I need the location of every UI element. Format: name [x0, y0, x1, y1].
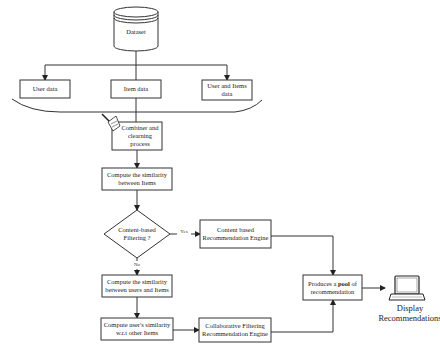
decision-label: Content-based Filtering ? — [114, 222, 160, 246]
content-engine-label: Content based Recommendation Engine — [202, 220, 269, 248]
dataset-label: Dataset — [114, 20, 158, 44]
laptop-icon — [389, 276, 425, 300]
yes-label: Yes — [177, 228, 191, 236]
pool-label-pre: Produces a — [308, 280, 338, 287]
collab-engine-label: Collaborative Filtering Recommendation E… — [201, 318, 269, 342]
user-similarity-label: Compute user's similarity w.r.t other It… — [103, 318, 171, 340]
user-data-label: User data — [20, 80, 70, 98]
item-similarity-label: Compute the similarity between Items — [104, 168, 170, 190]
pool-label: Produces a pool of recommendation — [305, 275, 360, 300]
combiner-label: Combiner and clearning process — [118, 122, 162, 150]
display-label: Display Recommendations — [380, 302, 440, 324]
no-label: No — [131, 261, 143, 269]
pool-label-bold: pool — [338, 280, 350, 287]
user-items-data-label: User and Items data — [204, 80, 250, 100]
user-item-similarity-label: Compute the similarity between users and… — [104, 275, 170, 297]
bracket-curve — [12, 99, 262, 112]
flowchart-canvas — [0, 0, 440, 355]
item-data-label: Item data — [111, 80, 161, 98]
